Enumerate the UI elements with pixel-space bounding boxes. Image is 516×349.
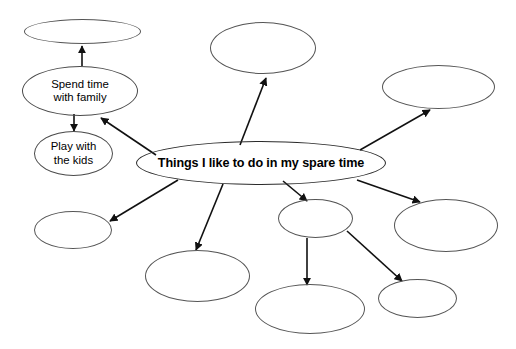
edge-middle-lower-to-bottom-right bbox=[347, 231, 402, 281]
node-label-line-2: with family bbox=[53, 91, 106, 103]
node-play-with-the-kids[interactable]: Play with the kids bbox=[34, 131, 113, 176]
node-spend-time-with-family-label: Spend time with family bbox=[47, 78, 113, 105]
edge-central-to-top-center bbox=[240, 78, 266, 145]
node-empty-right-lower[interactable] bbox=[394, 199, 498, 252]
node-empty-bottom-left[interactable] bbox=[145, 250, 250, 302]
central-node-label: Things I like to do in my spare time bbox=[154, 156, 368, 171]
node-play-with-the-kids-label: Play with the kids bbox=[47, 140, 101, 167]
node-label-line-2: the kids bbox=[54, 154, 93, 166]
edge-central-to-bottom-left bbox=[196, 184, 223, 250]
node-empty-top-left[interactable] bbox=[24, 19, 141, 44]
edge-central-to-right-lower bbox=[357, 180, 420, 202]
node-empty-top-right[interactable] bbox=[382, 65, 495, 109]
edge-central-to-top-right bbox=[360, 110, 430, 150]
node-label-line-1: Play with bbox=[51, 140, 97, 152]
node-empty-top-center[interactable] bbox=[210, 22, 316, 74]
node-label-line-1: Spend time bbox=[51, 78, 109, 90]
central-node[interactable]: Things I like to do in my spare time bbox=[136, 141, 386, 185]
edge-central-to-left-lower bbox=[110, 180, 178, 221]
node-spend-time-with-family[interactable]: Spend time with family bbox=[22, 66, 138, 116]
node-empty-middle-lower[interactable] bbox=[278, 199, 353, 238]
node-empty-left-lower[interactable] bbox=[34, 211, 112, 249]
node-empty-bottom-right[interactable] bbox=[378, 279, 457, 318]
concept-map-canvas: Spend time with family Play with the kid… bbox=[0, 0, 516, 349]
node-empty-bottom-center[interactable] bbox=[255, 284, 365, 334]
